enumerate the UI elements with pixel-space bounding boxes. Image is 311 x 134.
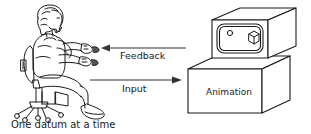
animation-box-label: Animation (206, 88, 252, 97)
diagram-canvas: Feedback Input Animation One datum at a … (0, 0, 311, 134)
input-arrow-label: Input (122, 84, 147, 94)
feedback-arrow-label: Feedback (120, 51, 165, 61)
diagram-caption: One datum at a time (11, 120, 115, 130)
diagram-illustration (0, 0, 311, 134)
cube-shape (249, 31, 259, 44)
circle-shape (227, 30, 232, 35)
input-device-upper (92, 47, 99, 53)
input-device-lower (91, 60, 98, 66)
